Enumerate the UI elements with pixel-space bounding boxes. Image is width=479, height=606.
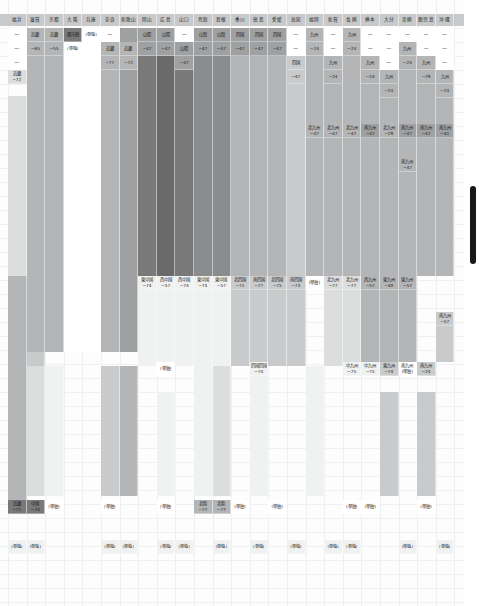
solo-marker-cell[interactable]: (単独): [436, 540, 455, 554]
chugoku-detail-cell[interactable]: 東九州~57: [399, 276, 418, 290]
solo-marker-cell[interactable]: (単独): [8, 540, 27, 554]
matrix-cell[interactable]: 近畿: [27, 28, 46, 42]
matrix-cell[interactable]: ~47: [231, 42, 250, 56]
column-header-tottori[interactable]: 鳥取: [194, 14, 213, 26]
naka-kyushu-cell[interactable]: 中九州~75: [361, 362, 380, 376]
matrix-cell[interactable]: —: [380, 28, 399, 42]
matrix-cell[interactable]: 九州: [343, 28, 362, 42]
column-header-wakayama[interactable]: 和歌山: [120, 14, 139, 26]
kyushu-split-cell[interactable]: 南九州~41: [436, 124, 455, 138]
kyushu-split-cell[interactable]: 北九州~47: [324, 124, 343, 138]
column-header-nagasaki[interactable]: 長崎: [343, 14, 362, 26]
matrix-cell[interactable]: ~55: [45, 42, 64, 56]
chugoku-detail-cell[interactable]: 北四国~75: [268, 276, 287, 290]
column-header-saga[interactable]: 佐賀: [324, 14, 343, 26]
matrix-cell[interactable]: 近畿: [120, 42, 139, 56]
column-header-shiga[interactable]: 滋賀: [27, 14, 46, 26]
bottom-value-cell[interactable]: (単独): [268, 500, 287, 514]
matrix-cell[interactable]: 九州: [436, 70, 455, 84]
solo-marker-cell[interactable]: (単独): [324, 540, 343, 554]
kyushu-split-cell[interactable]: 北九州~47: [343, 124, 362, 138]
chugoku-detail-cell[interactable]: 東中国~74: [138, 276, 157, 290]
matrix-cell[interactable]: —: [8, 56, 27, 70]
chugoku-detail-cell[interactable]: 西九州~57: [361, 276, 380, 290]
bottom-value-cell[interactable]: (単独): [231, 500, 250, 514]
matrix-cell[interactable]: 近畿: [101, 42, 120, 56]
matrix-cell[interactable]: 四国: [268, 28, 287, 42]
solo-marker-cell[interactable]: (単独): [399, 540, 418, 554]
bottom-value-cell[interactable]: (単独): [343, 500, 362, 514]
matrix-cell[interactable]: —: [436, 42, 455, 56]
matrix-cell[interactable]: 九州: [306, 28, 325, 42]
matrix-cell[interactable]: —: [324, 28, 343, 42]
matrix-cell[interactable]: 九州: [361, 56, 380, 70]
chugoku-detail-cell[interactable]: 南四国~73: [287, 276, 306, 290]
matrix-cell[interactable]: —: [175, 28, 194, 42]
matrix-cell[interactable]: ~29: [417, 70, 436, 84]
matrix-cell[interactable]: —: [101, 28, 120, 42]
matrix-cell[interactable]: —: [399, 28, 418, 42]
bottom-value-cell[interactable]: (単独): [361, 500, 380, 514]
matrix-cell[interactable]: ~47: [213, 42, 232, 56]
matrix-cell[interactable]: —: [380, 56, 399, 70]
matrix-cell[interactable]: ~77: [101, 56, 120, 70]
matrix-cell[interactable]: —: [417, 42, 436, 56]
matrix-cell[interactable]: ~24: [399, 56, 418, 70]
column-header-kochi[interactable]: 高知: [287, 14, 306, 26]
matrix-cell[interactable]: —: [361, 42, 380, 56]
column-header-tokushima[interactable]: 徳島: [250, 14, 269, 26]
solo-marker-cell[interactable]: (単独): [343, 540, 362, 554]
matrix-cell[interactable]: ~47: [194, 42, 213, 56]
bottom-value-cell[interactable]: 北陸~77: [194, 500, 213, 514]
bottom-value-cell[interactable]: (単独): [101, 500, 120, 514]
column-header-hiroshima[interactable]: 広島: [157, 14, 176, 26]
solo-marker-cell[interactable]: (単独): [213, 540, 232, 554]
matrix-cell[interactable]: 近畿: [45, 28, 64, 42]
chugoku-detail-cell[interactable]: 西中国~74: [175, 276, 194, 290]
matrix-cell[interactable]: ~24: [380, 84, 399, 98]
naka-kyushu-cell[interactable]: 南九州(単独): [399, 362, 418, 376]
bottom-value-cell[interactable]: 北陸~77: [213, 500, 232, 514]
minami-kyushu-cell[interactable]: 南九州~57: [436, 312, 455, 326]
matrix-cell[interactable]: ~65: [27, 42, 46, 56]
bottom-value-cell[interactable]: (単独): [157, 500, 176, 514]
bottom-value-cell[interactable]: 近畿~71: [8, 500, 27, 514]
column-header-nara[interactable]: 奈良: [101, 14, 120, 26]
kyushu-split-cell[interactable]: 南九州~47: [417, 124, 436, 138]
matrix-cell[interactable]: ~47: [138, 42, 157, 56]
matrix-cell[interactable]: —: [287, 28, 306, 42]
matrix-cell[interactable]: ~72: [120, 56, 139, 70]
matrix-cell[interactable]: (単独): [82, 28, 101, 42]
matrix-cell[interactable]: 九州: [417, 56, 436, 70]
matrix-cell[interactable]: (単独): [64, 42, 83, 56]
matrix-cell[interactable]: ~24: [306, 42, 325, 56]
column-header-fukui[interactable]: 福井: [8, 14, 27, 26]
matrix-cell[interactable]: —: [361, 28, 380, 42]
naka-kyushu-cell[interactable]: 中九州~75: [343, 362, 362, 376]
column-header-yamaguchi[interactable]: 山口: [175, 14, 194, 26]
solo-marker-cell[interactable]: (単独): [175, 540, 194, 554]
column-header-shimane[interactable]: 島根: [213, 14, 232, 26]
chugoku-detail-cell[interactable]: 北九州~77: [324, 276, 343, 290]
matrix-cell[interactable]: ~24: [343, 42, 362, 56]
matrix-cell[interactable]: —: [8, 42, 27, 56]
matrix-cell[interactable]: 山陽: [157, 28, 176, 42]
matrix-cell[interactable]: —: [417, 28, 436, 42]
chugoku-detail-cell[interactable]: 東中国~57: [213, 276, 232, 290]
column-header-miyazaki[interactable]: 宮崎: [399, 14, 418, 26]
solo-marker-cell[interactable]: (単独): [250, 540, 269, 554]
matrix-cell[interactable]: —: [436, 28, 455, 42]
chugoku-detail-cell[interactable]: 北九州~77: [343, 276, 362, 290]
solo-marker-cell[interactable]: (単独): [157, 540, 176, 554]
column-header-okayama[interactable]: 岡山: [138, 14, 157, 26]
column-header-osaka[interactable]: 大阪: [64, 14, 83, 26]
matrix-cell[interactable]: —: [436, 56, 455, 70]
chugoku-detail-cell[interactable]: 東中国~74: [194, 276, 213, 290]
chugoku-detail-cell[interactable]: 東九州~40: [380, 276, 399, 290]
matrix-cell[interactable]: ~47: [268, 42, 287, 56]
matrix-cell[interactable]: —: [324, 42, 343, 56]
column-header-kagoshima[interactable]: 鹿児島: [417, 14, 436, 26]
bottom-value-cell[interactable]: 中国~74: [27, 500, 46, 514]
solo-marker-cell[interactable]: (単独): [101, 540, 120, 554]
vertical-scrollbar-thumb[interactable]: [470, 186, 476, 264]
